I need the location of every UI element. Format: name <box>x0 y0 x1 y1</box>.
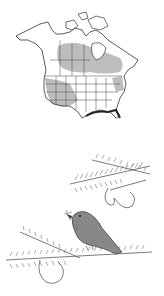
bird-on-branch-icon <box>0 140 164 296</box>
north-america-map-icon <box>0 0 164 140</box>
bird-illustration <box>0 140 164 296</box>
range-map <box>0 0 164 140</box>
